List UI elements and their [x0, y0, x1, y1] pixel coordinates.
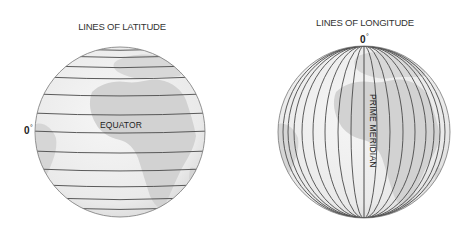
latitude-globe [33, 47, 207, 217]
prime-meridian-degree-label: 0° [360, 33, 369, 45]
latitude-line [96, 50, 145, 51]
degree-value: 0 [24, 125, 30, 136]
longitude-globe [278, 46, 450, 218]
degree-value: 0 [360, 34, 366, 45]
prime-meridian-label: PRIME MERIDIAN [368, 94, 378, 168]
equator-label: EQUATOR [100, 120, 142, 130]
degree-symbol: ° [366, 33, 369, 40]
equator-degree-label: 0° [24, 124, 33, 136]
globes-diagram [0, 0, 470, 227]
degree-symbol: ° [30, 124, 33, 131]
